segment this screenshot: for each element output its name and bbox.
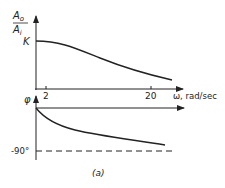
phi-label: φ (24, 94, 31, 105)
figure-caption: (a) (92, 168, 105, 178)
phase-curve (36, 108, 165, 145)
y-label-numerator: Ao (12, 10, 24, 23)
magnitude-curve (36, 41, 172, 80)
minus-90-label: -90° (11, 146, 29, 156)
magnitude-plot: Ao Ai K 2 20 ω, rad/sec (12, 10, 217, 101)
frequency-response-diagram: Ao Ai K 2 20 ω, rad/sec φ -90° (a) (0, 0, 225, 188)
tick-label-20: 20 (145, 91, 157, 101)
tick-label-2: 2 (43, 91, 49, 101)
y-label-denominator: Ai (12, 24, 22, 37)
x-axis-label: ω, rad/sec (173, 91, 217, 101)
k-label: K (23, 36, 31, 47)
phase-plot: φ -90° (11, 94, 184, 160)
